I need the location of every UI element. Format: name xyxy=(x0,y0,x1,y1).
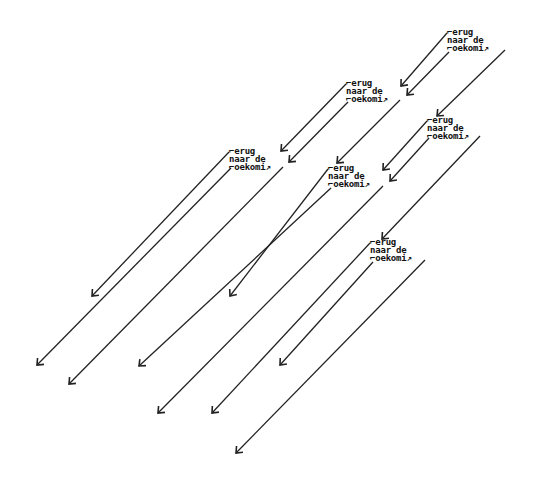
arrow-shaft xyxy=(390,138,429,181)
arrow-c-8 xyxy=(69,167,283,384)
arrow-e-13 xyxy=(139,188,331,366)
arrow-shaft xyxy=(437,50,505,116)
arrow-shaft xyxy=(139,188,331,366)
arrow-a-2 xyxy=(437,50,505,116)
arrow-shaft xyxy=(92,152,229,296)
text-line: ⌐oekomi↗ xyxy=(447,44,489,52)
text-line: ⌐oekomi↗ xyxy=(427,132,469,140)
arrow-layer xyxy=(37,33,505,453)
text-line: ⌐oekomi↗ xyxy=(370,254,412,262)
arrow-f-16 xyxy=(280,262,373,365)
arrow-shaft xyxy=(382,136,480,239)
arrow-shaft xyxy=(158,186,383,413)
text-line: ⌐oekomi↗ xyxy=(328,180,370,188)
arrow-a-1 xyxy=(407,52,449,95)
arrow-e-12 xyxy=(230,169,328,296)
arrow-shaft xyxy=(289,102,348,162)
arrow-e-14 xyxy=(158,186,383,413)
text-block-e: ⌐erugnaar de⌐oekomi↗ xyxy=(328,164,370,188)
arrow-shaft xyxy=(212,243,370,413)
arrow-shaft xyxy=(337,100,400,163)
arrow-d-10 xyxy=(390,138,429,181)
arrow-shaft xyxy=(281,84,346,151)
text-block-c: ⌐erugnaar de⌐oekomi↗ xyxy=(229,147,271,171)
arrow-c-7 xyxy=(37,168,231,365)
text-block-d: ⌐erugnaar de⌐oekomi↗ xyxy=(427,116,469,140)
text-line: ⌐oekomi↗ xyxy=(229,163,271,171)
text-line: ⌐oekomi↗ xyxy=(346,95,388,103)
arrow-b-4 xyxy=(289,102,348,162)
text-block-b: ⌐erugnaar de⌐oekomi↗ xyxy=(346,79,388,103)
arrow-shaft xyxy=(230,169,328,296)
text-block-a: ⌐erugnaar de⌐oekomi↗ xyxy=(447,28,489,52)
arrow-shaft xyxy=(383,121,427,170)
arrow-c-6 xyxy=(92,152,229,296)
recursive-arrow-diagram xyxy=(0,0,549,482)
arrow-shaft xyxy=(280,262,373,365)
arrow-shaft xyxy=(37,168,231,365)
arrow-f-15 xyxy=(212,243,370,413)
arrow-d-11 xyxy=(382,136,480,239)
arrow-shaft xyxy=(407,52,449,95)
arrow-b-5 xyxy=(337,100,400,163)
text-block-f: ⌐erugnaar de⌐oekomi↗ xyxy=(370,238,412,262)
arrow-d-9 xyxy=(383,121,427,170)
arrow-b-3 xyxy=(281,84,346,151)
arrow-shaft xyxy=(69,167,283,384)
